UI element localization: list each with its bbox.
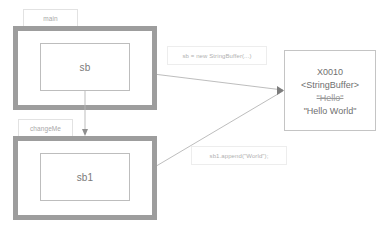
- variable-box-sb: sb: [40, 43, 130, 91]
- annotation-constructor: sb = new StringBuffer(...): [167, 46, 267, 65]
- variable-label-sb1: sb1: [77, 172, 94, 183]
- annotation-append: sb1.append("World");: [191, 146, 287, 165]
- annotation-text: sb = new StringBuffer(...): [182, 53, 251, 59]
- frame-tab-changeme: changeMe: [18, 119, 73, 136]
- arrowhead-down-icon: [82, 129, 88, 136]
- variable-label-sb: sb: [80, 62, 91, 73]
- variable-box-sb1: sb1: [40, 153, 130, 201]
- diagram-canvas: main sb changeMe sb1 X0010 <StringBuffer…: [0, 0, 387, 231]
- heap-old-value: "Hello": [317, 92, 344, 105]
- frame-tab-label: main: [43, 15, 58, 22]
- heap-new-value: "Hello World": [304, 105, 357, 118]
- heap-object-box: X0010 <StringBuffer> "Hello" "Hello Worl…: [284, 50, 376, 131]
- frame-tab-main: main: [23, 9, 78, 26]
- annotation-text: sb1.append("World");: [210, 153, 269, 159]
- frame-tab-label: changeMe: [30, 125, 61, 132]
- arrowhead-heap-icon: [277, 86, 284, 95]
- heap-address: X0010: [317, 66, 343, 79]
- heap-type: <StringBuffer>: [301, 79, 359, 92]
